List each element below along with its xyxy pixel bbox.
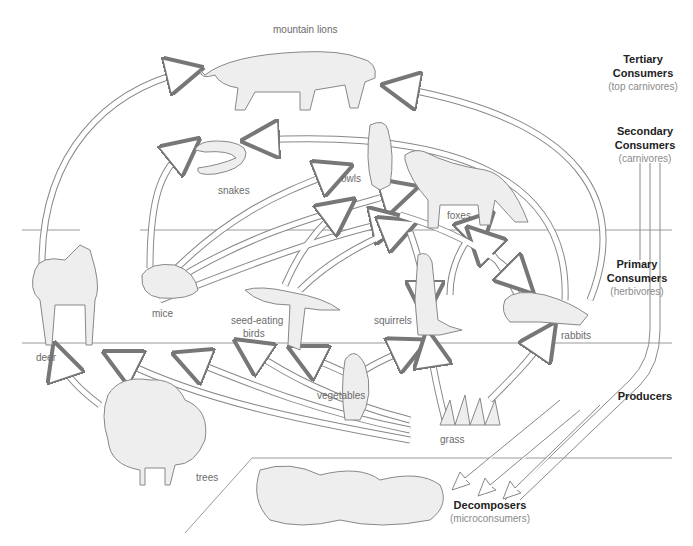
- label-rabbits: rabbits: [561, 330, 591, 341]
- label-seed-eating-birds-line2: birds: [243, 328, 265, 339]
- snake-illustration: [195, 141, 246, 174]
- level-primary-title2: Consumers: [592, 271, 682, 285]
- level-tertiary-subtitle: (top carnivores): [598, 80, 688, 94]
- level-producers-title: Producers: [600, 389, 690, 403]
- level-primary-subtitle: (herbivores): [592, 285, 682, 299]
- rabbit-illustration: [503, 292, 588, 325]
- owl-illustration: [368, 122, 392, 190]
- level-primary-title: Primary: [592, 257, 682, 271]
- label-owls: owls: [341, 173, 361, 184]
- level-secondary-title: Secondary: [600, 124, 690, 138]
- organism-illustrations: [32, 52, 588, 525]
- level-secondary-consumers: Secondary Consumers (carnivores): [600, 124, 690, 166]
- level-secondary-subtitle: (carnivores): [600, 152, 690, 166]
- mountain-lion-illustration: [200, 52, 375, 110]
- decomposers-illustration: [257, 466, 444, 525]
- level-tertiary-title2: Consumers: [598, 66, 688, 80]
- label-grass: grass: [440, 434, 464, 445]
- label-deer: deer: [36, 352, 56, 363]
- label-mice: mice: [152, 308, 173, 319]
- level-secondary-title2: Consumers: [600, 138, 690, 152]
- level-primary-consumers: Primary Consumers (herbivores): [592, 257, 682, 299]
- level-decomposers-title: Decomposers: [440, 498, 540, 512]
- label-squirrels: squirrels: [374, 315, 412, 326]
- label-vegetables: vegetables: [317, 390, 365, 401]
- label-trees: trees: [196, 472, 218, 483]
- label-seed-eating-birds-line1: seed-eating: [231, 315, 283, 326]
- label-mountain-lions: mountain lions: [273, 24, 337, 35]
- level-decomposers: Decomposers (microconsumers): [440, 498, 540, 526]
- vegetables-illustration: [343, 354, 370, 420]
- label-snakes: snakes: [218, 185, 250, 196]
- label-foxes: foxes: [447, 210, 471, 221]
- level-tertiary-consumers: Tertiary Consumers (top carnivores): [598, 52, 688, 94]
- food-web-diagram: [0, 0, 693, 546]
- level-decomposers-subtitle: (microconsumers): [440, 512, 540, 526]
- level-tertiary-title: Tertiary: [598, 52, 688, 66]
- level-producers: Producers: [600, 389, 690, 403]
- tree-illustration: [104, 379, 206, 485]
